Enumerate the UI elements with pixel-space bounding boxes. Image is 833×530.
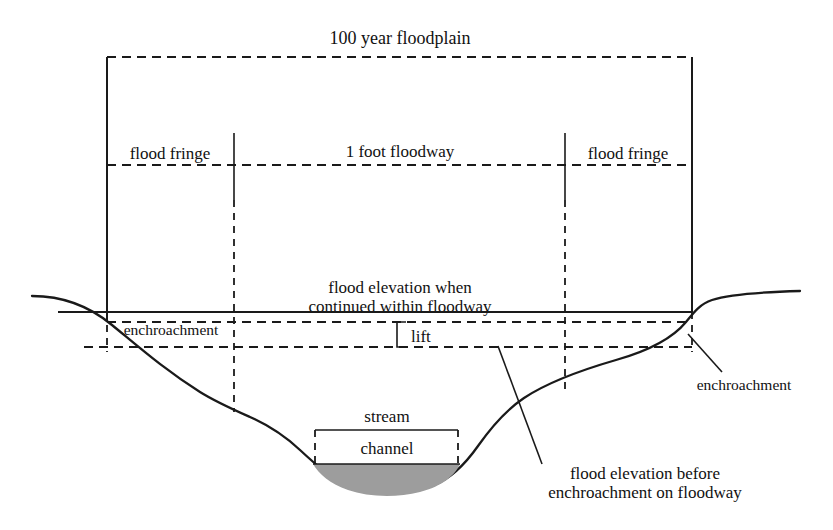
label-lift: lift — [411, 327, 431, 346]
lift-bracket — [397, 322, 406, 347]
right-encroachment-leader-line — [688, 334, 722, 372]
label-left-flood-fringe: flood fringe — [130, 144, 211, 163]
label-stream: stream — [364, 407, 409, 426]
label-right-flood-fringe: flood fringe — [588, 144, 669, 163]
label-flood-elevation-before-line1: flood elevation before — [570, 464, 720, 483]
stream-water-fill — [313, 464, 460, 496]
label-right-encroachment: enchroachment — [697, 376, 792, 393]
label-flood-elevation-when-line2: continued within floodway — [308, 297, 492, 316]
floodplain-cross-section-diagram: 100 year floodplain flood fringe 1 foot … — [0, 0, 833, 530]
diagram-canvas: 100 year floodplain flood fringe 1 foot … — [0, 0, 833, 530]
flood-elevation-before-leader-line — [498, 346, 542, 464]
label-floodway: 1 foot floodway — [346, 142, 455, 161]
diagram-title: 100 year floodplain — [330, 28, 471, 48]
label-channel: channel — [361, 439, 414, 458]
label-flood-elevation-when-line1: flood elevation when — [328, 278, 472, 297]
label-left-encroachment: enchroachment — [124, 321, 219, 338]
label-flood-elevation-before-line2: enchroachment on floodway — [548, 483, 742, 502]
